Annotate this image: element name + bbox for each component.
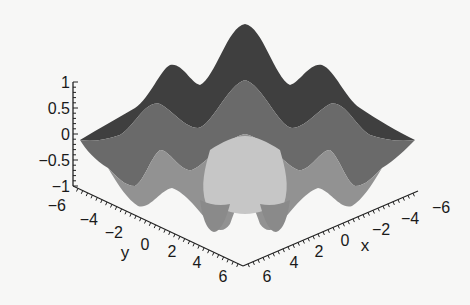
z-tick-label: 0.5 [48,100,70,117]
x-tick-label: 6 [263,268,272,285]
z-axis: 1 0.5 0 −0.5 −1 [38,74,78,195]
x-tick-label: −6 [432,199,450,216]
x-tick-label: 4 [290,254,299,271]
z-tick-label: −1 [52,178,70,195]
y-tick-label: 4 [193,254,202,271]
x-tick-label: −2 [372,221,390,238]
z-tick-label: 0 [61,126,70,143]
y-tick-label: 6 [219,268,228,285]
y-tick-label: 2 [168,243,177,260]
x-tick-label: −4 [401,210,419,227]
x-axis-title: x [361,236,370,255]
surface [80,24,415,232]
z-tick-label: −0.5 [38,152,70,169]
surface-band-4 [203,136,286,214]
z-tick-label: 1 [61,74,70,91]
x-tick-label: 0 [341,232,350,249]
y-axis-title: y [121,243,130,262]
y-tick-label: −2 [105,224,123,241]
y-tick-label: 0 [141,236,150,253]
surface-plot: 1 0.5 0 −0.5 −1 [0,0,470,305]
y-tick-label: −4 [80,211,98,228]
y-tick-label: −6 [48,197,66,214]
z-axis-ticks [73,82,78,186]
x-tick-label: 2 [315,243,324,260]
